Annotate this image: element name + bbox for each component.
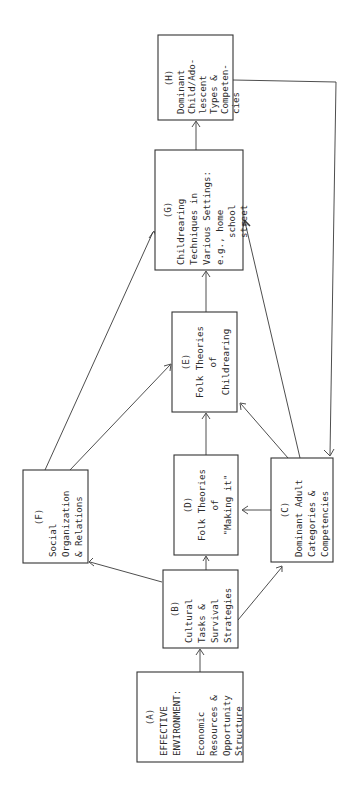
node-h: (H) Dominant Child/Ado- lescent Types & … [158, 35, 241, 120]
node-a-line: Resources & [208, 695, 219, 756]
edge-c-e [240, 403, 288, 458]
node-h-label: (H) [163, 70, 174, 87]
edge-e-g [202, 271, 210, 312]
edge-c-d [242, 506, 271, 514]
node-g-line: e.g., home [214, 210, 225, 265]
node-d: (D) Folk Theories of "Making it" [174, 455, 238, 555]
node-g-line: Various Settings: [201, 171, 212, 265]
node-a: (A) EFFECTIVE ENVIRONMENT: Economic Reso… [137, 672, 244, 762]
edge-a-b [196, 649, 204, 672]
node-a-line: ENVIRONMENT: [171, 690, 182, 756]
node-e-line: Folk Theories [194, 326, 205, 398]
edge-c-g [242, 221, 300, 458]
node-b-line: Cultural [183, 599, 194, 643]
edge-g-h [192, 121, 200, 150]
node-h-line: lescent [197, 75, 208, 114]
edge-b-d [203, 556, 209, 570]
node-f: (F) Social Organization & Relations [23, 470, 88, 563]
node-a-line: Economic [195, 712, 206, 756]
node-e-label: (E) [180, 354, 191, 371]
node-b-line: Survival [209, 599, 220, 643]
node-b-line: Tasks & [196, 604, 207, 643]
edge-b-f [89, 558, 162, 582]
node-h-line: Child/Ado- [186, 59, 197, 114]
node-g: (G) Childrearing Techniques in Various S… [155, 150, 249, 270]
node-f-line: Social [47, 524, 58, 557]
node-e: (E) Folk Theories of Childrearing [172, 312, 237, 412]
edge-d-e [202, 413, 210, 455]
node-f-label: (F) [33, 509, 44, 526]
node-d-line: "Making it" [222, 475, 233, 536]
node-a-line: Structure [233, 706, 244, 756]
flow-diagram: (A) EFFECTIVE ENVIRONMENT: Economic Reso… [0, 0, 364, 806]
edge-h-c [233, 80, 336, 456]
node-e-line: of [207, 356, 218, 367]
node-e-line: Childrearing [220, 329, 231, 395]
node-g-line: Childrearing [175, 199, 186, 265]
node-d-line: Folk Theories [196, 469, 207, 541]
node-g-line: school [226, 205, 237, 238]
node-a-line: Opportunity [221, 695, 232, 756]
node-h-line: Competen- [219, 64, 230, 114]
node-d-line: of [209, 499, 220, 510]
node-g-label: (G) [162, 202, 173, 219]
node-h-line: Dominant [175, 70, 186, 114]
node-c-line: Categories & [306, 490, 317, 557]
node-f-line: & Relations [73, 496, 84, 557]
node-b-label: (B) [169, 601, 180, 618]
edge-f-e [70, 364, 171, 470]
node-c-label: (C) [279, 502, 290, 519]
node-c-line: Dominant Adult [293, 480, 304, 557]
node-h-line: cies [230, 92, 241, 114]
node-a-label: (A) [144, 709, 155, 726]
edge-b-c [238, 566, 282, 620]
edge-f-g [45, 231, 157, 470]
node-b-line: Strategies [222, 588, 233, 643]
node-b: (B) Cultural Tasks & Survival Strategies [163, 570, 238, 648]
node-g-line: street [238, 205, 249, 238]
node-f-line: Organization [60, 491, 71, 557]
node-g-line: Techniques in [188, 193, 199, 265]
node-d-label: (D) [182, 497, 193, 514]
node-c: (C) Dominant Adult Categories & Competen… [271, 458, 333, 562]
node-c-line: Competencies [319, 491, 330, 557]
node-a-line: EFFECTIVE [158, 706, 169, 756]
node-h-line: Types & [208, 75, 219, 114]
